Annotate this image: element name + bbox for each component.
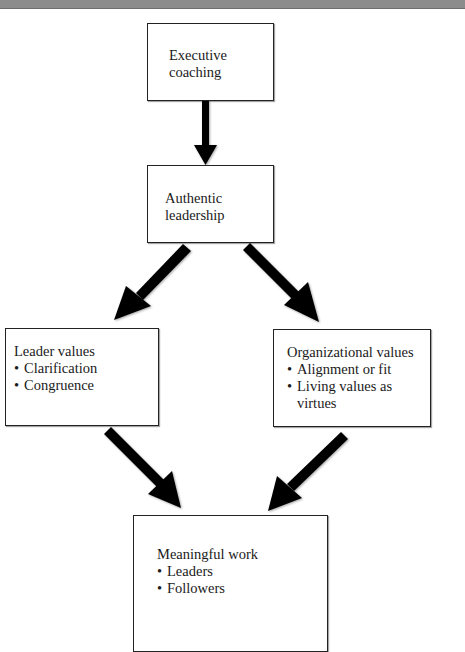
bullet-item: Alignment or fit — [287, 361, 427, 378]
node-title: Organizational values — [287, 344, 427, 361]
node-title: Leader values — [14, 343, 97, 360]
arrow-organizational-values-to-meaningful-work — [268, 432, 348, 511]
node-executive-coaching: Executive coaching — [147, 23, 274, 101]
bullet-list: Alignment or fit Living values as virtue… — [287, 361, 427, 412]
bullet-item: Congruence — [14, 377, 97, 394]
bullet-item: Followers — [157, 580, 258, 597]
arrow-executive-to-authentic — [194, 100, 217, 165]
bullet-list: Leaders Followers — [157, 563, 258, 597]
bullet-item: Leaders — [157, 563, 258, 580]
arrow-leader-values-to-meaningful-work — [104, 427, 181, 508]
bullet-item: Living values as virtues — [287, 378, 405, 412]
bullet-list: Clarification Congruence — [14, 360, 97, 394]
node-organizational-values: Organizational values Alignment or fit L… — [273, 329, 431, 427]
node-authentic-leadership: Authentic leadership — [147, 165, 274, 243]
node-meaningful-work: Meaningful work Leaders Followers — [133, 515, 328, 652]
arrow-authentic-to-leader-values — [114, 244, 191, 320]
node-title: Authentic leadership — [165, 190, 225, 224]
node-leader-values: Leader values Clarification Congruence — [5, 328, 159, 426]
node-title: Meaningful work — [157, 546, 258, 563]
arrow-authentic-to-organizational-values — [243, 243, 319, 322]
node-title: Executive coaching — [169, 47, 227, 81]
bullet-item: Clarification — [14, 360, 97, 377]
